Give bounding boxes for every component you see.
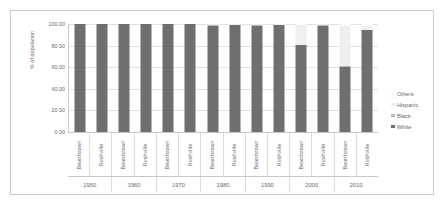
category-cell: Rushville bbox=[268, 133, 290, 176]
y-axis-tick-20: 20.00 bbox=[52, 107, 66, 113]
category-cell: Beardstown bbox=[112, 133, 134, 176]
category-label-beardstown: Beardstown bbox=[253, 140, 259, 169]
category-cell: Rushville bbox=[312, 133, 334, 176]
stacked-bar[interactable] bbox=[229, 24, 240, 132]
category-cell: Beardstown bbox=[68, 133, 90, 176]
stacked-bar[interactable] bbox=[141, 24, 152, 132]
bar-segment-white[interactable] bbox=[229, 25, 240, 132]
y-axis-tick-labels: 0.0020.0040.0060.0080.00100.00 bbox=[33, 24, 67, 132]
category-cell: Rushville bbox=[135, 133, 157, 176]
category-label-rushville: Rushville bbox=[276, 143, 282, 165]
legend-label-others: Others bbox=[397, 91, 414, 97]
legend-item-hispanic[interactable]: Hispanic bbox=[391, 99, 435, 110]
bar-series-group bbox=[69, 24, 378, 132]
stacked-bar[interactable] bbox=[185, 24, 196, 132]
decade-label-2000: 2000 bbox=[290, 177, 334, 192]
chart-legend: OthersHispanicBlackWhite bbox=[391, 88, 435, 132]
legend-label-white: White bbox=[397, 124, 411, 130]
stacked-bar[interactable] bbox=[163, 24, 174, 132]
bar-segment-white[interactable] bbox=[163, 24, 174, 132]
y-axis-tick-100: 100.00 bbox=[49, 21, 66, 27]
bar-segment-hispanic[interactable] bbox=[295, 25, 306, 45]
stacked-bar[interactable] bbox=[362, 24, 373, 132]
decade-label-1990: 1990 bbox=[246, 177, 290, 192]
legend-swatch-icon-others bbox=[391, 92, 395, 96]
bar-segment-white[interactable] bbox=[251, 26, 262, 132]
bar-slot bbox=[179, 24, 201, 132]
stacked-bar[interactable] bbox=[119, 24, 130, 132]
decade-label-1980: 1980 bbox=[201, 177, 245, 192]
category-label-rushville: Rushville bbox=[364, 143, 370, 165]
bar-slot bbox=[246, 24, 268, 132]
bar-segment-white[interactable] bbox=[207, 26, 218, 132]
y-axis-tick-0: 0.00 bbox=[55, 129, 66, 135]
y-axis-tick-60: 60.00 bbox=[52, 64, 66, 70]
bar-slot bbox=[201, 24, 223, 132]
category-label-beardstown: Beardstown bbox=[342, 140, 348, 169]
bar-segment-white[interactable] bbox=[185, 24, 196, 132]
legend-swatch-icon-white bbox=[391, 125, 395, 129]
category-cell: Rushville bbox=[357, 133, 378, 176]
stacked-bar[interactable] bbox=[75, 24, 86, 132]
bar-slot bbox=[290, 24, 312, 132]
bar-segment-white[interactable] bbox=[75, 24, 86, 132]
category-label-rushville: Rushville bbox=[142, 143, 148, 165]
decade-label-1960: 1960 bbox=[112, 177, 156, 192]
legend-item-white[interactable]: White bbox=[391, 121, 435, 132]
category-label-rushville: Rushville bbox=[187, 143, 193, 165]
category-label-beardstown: Beardstown bbox=[298, 140, 304, 169]
bar-segment-white[interactable] bbox=[339, 67, 350, 132]
category-label-beardstown: Beardstown bbox=[164, 140, 170, 169]
bar-slot bbox=[157, 24, 179, 132]
category-cell: Rushville bbox=[224, 133, 246, 176]
bar-segment-white[interactable] bbox=[97, 24, 108, 132]
y-axis-tick-40: 40.00 bbox=[52, 86, 66, 92]
chart-container: % of population 0.0020.0040.0060.0080.00… bbox=[10, 10, 434, 195]
y-axis-tick-80: 80.00 bbox=[52, 43, 66, 49]
stacked-bar[interactable] bbox=[207, 24, 218, 132]
category-axis: BeardstownRushvilleBeardstownRushvilleBe… bbox=[68, 132, 378, 176]
stacked-bar[interactable] bbox=[295, 24, 306, 132]
bar-slot bbox=[91, 24, 113, 132]
bar-segment-white[interactable] bbox=[317, 26, 328, 132]
bar-slot bbox=[224, 24, 246, 132]
stacked-bar[interactable] bbox=[317, 24, 328, 132]
bar-slot bbox=[334, 24, 356, 132]
category-label-beardstown: Beardstown bbox=[209, 140, 215, 169]
bar-slot bbox=[69, 24, 91, 132]
bar-slot bbox=[113, 24, 135, 132]
category-label-rushville: Rushville bbox=[320, 143, 326, 165]
category-cell: Rushville bbox=[179, 133, 201, 176]
bar-segment-white[interactable] bbox=[273, 25, 284, 132]
category-label-beardstown: Beardstown bbox=[76, 140, 82, 169]
stacked-bar[interactable] bbox=[339, 24, 350, 132]
legend-label-black: Black bbox=[397, 113, 411, 119]
stacked-bar[interactable] bbox=[251, 24, 262, 132]
category-cell: Beardstown bbox=[201, 133, 223, 176]
bar-segment-hispanic[interactable] bbox=[339, 26, 350, 65]
category-cell: Rushville bbox=[90, 133, 112, 176]
stacked-bar[interactable] bbox=[273, 24, 284, 132]
legend-item-black[interactable]: Black bbox=[391, 110, 435, 121]
category-label-rushville: Rushville bbox=[231, 143, 237, 165]
category-cell: Beardstown bbox=[246, 133, 268, 176]
bar-slot bbox=[356, 24, 378, 132]
category-cell: Beardstown bbox=[157, 133, 179, 176]
decade-axis: 1950196019701980199020002010 bbox=[68, 176, 378, 192]
decade-label-2010: 2010 bbox=[335, 177, 378, 192]
bar-segment-white[interactable] bbox=[295, 45, 306, 132]
bar-slot bbox=[312, 24, 334, 132]
legend-swatch-icon-hispanic bbox=[391, 103, 395, 107]
decade-label-1950: 1950 bbox=[68, 177, 112, 192]
category-cell: Beardstown bbox=[290, 133, 312, 176]
bar-segment-white[interactable] bbox=[119, 24, 130, 132]
bar-segment-white[interactable] bbox=[141, 24, 152, 132]
legend-item-others[interactable]: Others bbox=[391, 88, 435, 99]
bar-slot bbox=[268, 24, 290, 132]
plot-area bbox=[68, 24, 378, 132]
category-label-beardstown: Beardstown bbox=[120, 140, 126, 169]
legend-label-hispanic: Hispanic bbox=[397, 102, 418, 108]
bar-segment-white[interactable] bbox=[362, 30, 373, 132]
decade-label-1970: 1970 bbox=[157, 177, 201, 192]
stacked-bar[interactable] bbox=[97, 24, 108, 132]
